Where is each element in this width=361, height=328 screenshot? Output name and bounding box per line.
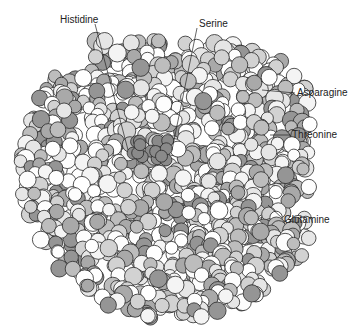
protein-model-figure — [0, 0, 361, 328]
label-serine: Serine — [199, 19, 228, 29]
label-histidine: Histidine — [60, 15, 98, 25]
atom-spheres — [14, 32, 317, 325]
label-asparagine: Asparagine — [297, 88, 348, 98]
label-threonine: Threonine — [292, 130, 337, 140]
label-glutamine: Glutamine — [284, 215, 330, 225]
